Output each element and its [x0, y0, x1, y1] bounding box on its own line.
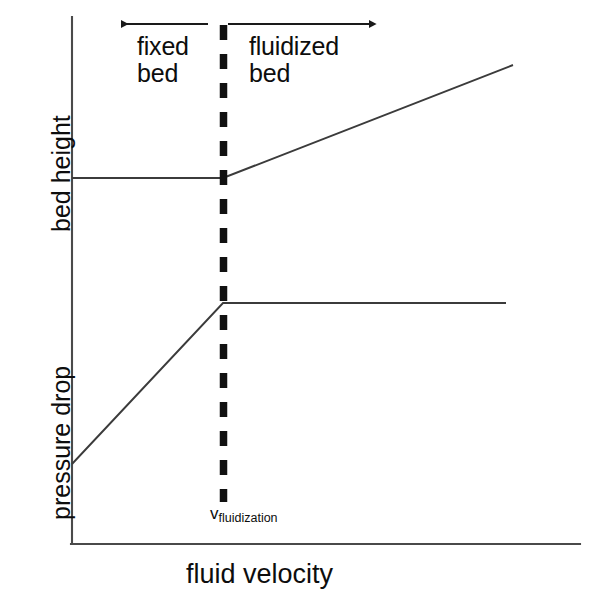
y-axis-title-pressure-drop: pressure drop [48, 366, 75, 520]
region-label-fixed-bed-line2: bed [137, 60, 189, 87]
region-label-fluidized-bed: fluidized bed [249, 33, 339, 87]
region-label-fluidized-bed-line2: bed [249, 60, 339, 87]
y-axis-title-bed-height: bed height [48, 115, 75, 232]
region-label-fluidized-bed-line1: fluidized [249, 33, 339, 60]
region-label-fixed-bed-line1: fixed [137, 33, 189, 60]
fluidization-plot [0, 0, 599, 616]
threshold-subscript: fluidization [219, 511, 278, 525]
figure-canvas: fixed bed fluidized bed bed height press… [0, 0, 599, 616]
region-label-fixed-bed: fixed bed [137, 33, 189, 87]
pressure-drop-curve [72, 303, 506, 464]
threshold-symbol: v [210, 504, 219, 523]
threshold-label-v-fluidization: vfluidization [210, 505, 278, 523]
x-axis-title-fluid-velocity: fluid velocity [186, 560, 333, 589]
